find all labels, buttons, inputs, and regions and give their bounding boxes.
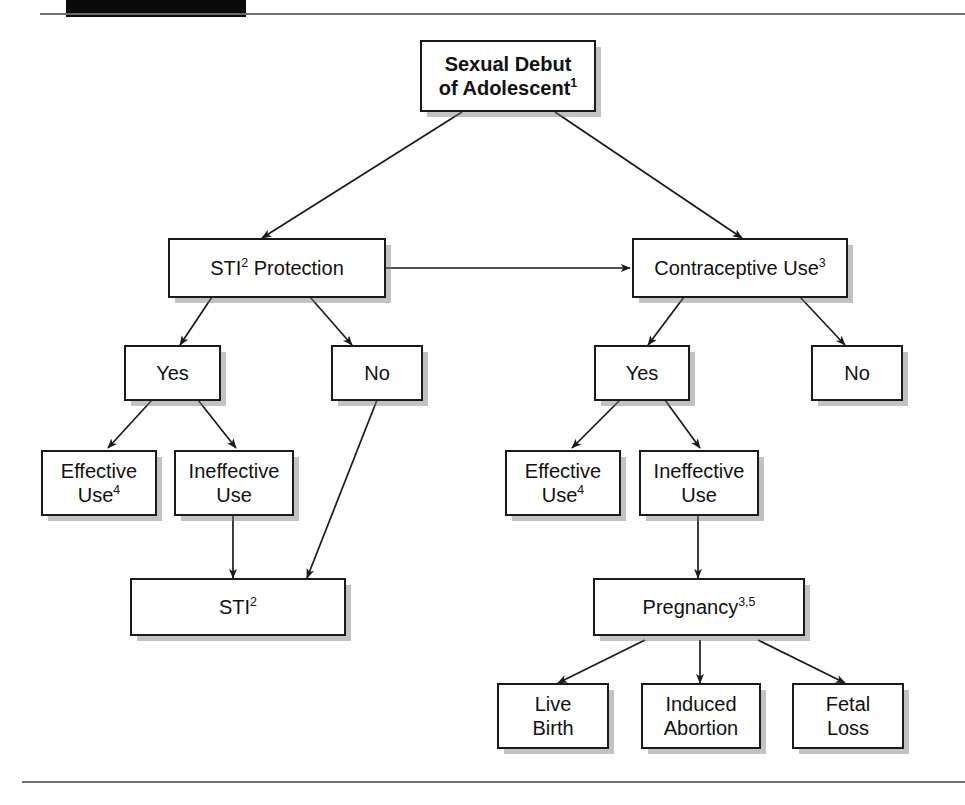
edge-sti-no-to-sti [307,400,377,578]
node-contra-yes-label: Yes [600,361,684,385]
node-contra-effective-use-superscript: 4 [577,483,584,497]
flowchart-page: Sexual Debut of Adolescent1 STI2 Protect… [0,0,965,805]
node-sexual-debut[interactable]: Sexual Debut of Adolescent1 [420,40,596,112]
node-pregnancy[interactable]: Pregnancy3,5 [593,578,805,636]
edge-debut-to-sti-protection [262,112,462,238]
node-induced-abortion-line1: Induced [665,693,736,715]
node-fetal-loss-line2: Loss [827,717,869,739]
node-contra-ineffective-use[interactable]: Ineffective Use [639,450,759,516]
node-contra-no[interactable]: No [811,345,903,401]
node-pregnancy-label: Pregnancy [643,596,739,618]
node-sexual-debut-line1: Sexual Debut [445,53,572,75]
node-induced-abortion-line2: Abortion [664,717,739,739]
node-contraceptive-use[interactable]: Contraceptive Use3 [632,238,848,298]
edge-pregnancy-to-live-birth [558,640,645,683]
edge-sti-protection-to-no [310,297,352,345]
node-sti-protection-label-after: Protection [248,257,344,279]
node-fetal-loss-line1: Fetal [826,693,870,715]
node-sti-effective-use-line1: Effective [61,460,137,482]
node-contra-yes[interactable]: Yes [594,345,690,401]
node-sti-outcome[interactable]: STI2 [130,578,346,636]
node-sti-ineffective-use-line1: Ineffective [189,460,280,482]
node-sti-outcome-label: STI [219,596,250,618]
node-sti-ineffective-use[interactable]: Ineffective Use [174,450,294,516]
node-contraceptive-use-superscript: 3 [819,256,826,270]
node-contra-effective-use-line1: Effective [525,460,601,482]
node-sti-ineffective-use-line2: Use [216,484,252,506]
edge-sti-protection-to-yes [180,297,212,345]
node-sti-no[interactable]: No [331,345,423,401]
node-sti-protection[interactable]: STI2 Protection [168,238,386,298]
node-pregnancy-superscript: 3,5 [738,595,755,609]
node-induced-abortion[interactable]: Induced Abortion [641,683,761,749]
node-contra-effective-use-line2: Use [542,484,578,506]
edge-contra-yes-to-effective [572,400,620,448]
node-contra-ineffective-use-line1: Ineffective [654,460,745,482]
node-live-birth-line1: Live [535,693,572,715]
node-sexual-debut-superscript: 1 [570,76,577,90]
edge-contra-yes-to-ineffective [665,400,700,448]
edge-sti-yes-to-effective [108,400,152,448]
node-sti-no-label: No [337,361,417,385]
node-sti-effective-use-line2: Use [78,484,114,506]
node-sti-effective-use[interactable]: Effective Use4 [41,450,157,516]
node-contraceptive-use-label: Contraceptive Use [654,257,819,279]
node-fetal-loss[interactable]: Fetal Loss [792,683,904,749]
edge-debut-to-contraceptive [555,112,742,238]
node-sti-protection-label: STI [210,257,241,279]
node-live-birth-line2: Birth [532,717,573,739]
edge-contraceptive-to-no [800,297,845,345]
node-sti-yes[interactable]: Yes [124,345,221,401]
edge-pregnancy-to-fetal-loss [758,640,845,683]
node-sti-effective-use-superscript: 4 [113,483,120,497]
node-sti-yes-label: Yes [130,361,215,385]
edge-sti-yes-to-ineffective [198,400,236,448]
node-contra-ineffective-use-line2: Use [681,484,717,506]
node-live-birth[interactable]: Live Birth [497,683,609,749]
node-contra-effective-use[interactable]: Effective Use4 [505,450,621,516]
node-contra-no-label: No [817,361,897,385]
node-sti-outcome-superscript: 2 [250,595,257,609]
edge-contraceptive-to-yes [648,297,684,345]
node-sexual-debut-line2: of Adolescent [439,77,571,99]
